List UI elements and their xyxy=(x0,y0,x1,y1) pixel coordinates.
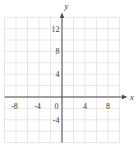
x-axis-arrowhead-icon xyxy=(122,95,128,99)
y-tick-label: 4 xyxy=(56,70,60,79)
y-tick-label: 12 xyxy=(52,25,60,34)
empty-grid-plot: -8-4480-44812xy xyxy=(0,0,139,150)
x-tick-label: 8 xyxy=(106,102,110,111)
x-tick-label: 4 xyxy=(83,102,87,111)
x-axis-title: x xyxy=(129,92,134,102)
y-axis-arrowhead-icon xyxy=(60,13,64,19)
y-tick-label: 8 xyxy=(56,47,60,56)
x-tick-label: -4 xyxy=(34,102,41,111)
x-tick-label: -8 xyxy=(11,102,18,111)
y-axis-title: y xyxy=(64,1,69,11)
coordinate-plane: -8-4480-44812xy xyxy=(0,0,139,150)
origin-label: 0 xyxy=(55,102,59,111)
y-tick-label: -4 xyxy=(53,116,60,125)
